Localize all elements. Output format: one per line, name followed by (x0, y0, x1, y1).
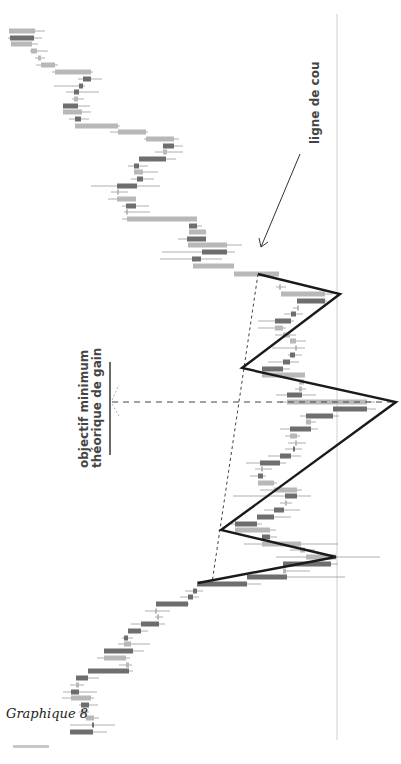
candle-body (71, 690, 79, 695)
candle-body (76, 683, 79, 688)
candle-body (117, 197, 136, 202)
candle-body (260, 461, 280, 466)
candle-body (290, 353, 295, 358)
candle-body (155, 609, 157, 614)
candle-body (117, 184, 137, 189)
candle-body (74, 90, 79, 95)
candle-body (306, 414, 333, 419)
candle-body (38, 56, 41, 61)
candle-body (283, 360, 290, 365)
candle-body (285, 494, 297, 499)
candle-body (104, 656, 126, 661)
candle-body (11, 42, 32, 47)
candle-body (234, 272, 279, 277)
candle-body (193, 264, 234, 269)
candle-body (295, 441, 297, 446)
candle-body (71, 696, 91, 701)
candle-body (188, 243, 227, 248)
candle-body (235, 522, 257, 527)
candle-body (75, 117, 81, 122)
candle-body (306, 420, 311, 425)
candle-body (9, 29, 35, 34)
candle-body (134, 170, 143, 175)
candle-body (137, 177, 143, 182)
candle-body (281, 292, 325, 297)
candle-body (258, 481, 274, 486)
neckline-arrow-head (259, 238, 268, 247)
candle-body (55, 70, 91, 75)
candle-body (187, 237, 206, 242)
candle-body (31, 49, 37, 54)
candle-body (297, 306, 299, 311)
candle-body (63, 110, 82, 115)
target-marker-ticks (112, 385, 119, 416)
candle-body (146, 137, 174, 142)
candle-body (41, 63, 55, 68)
candle-body (104, 649, 133, 654)
candle-body (156, 602, 188, 607)
candle-body (193, 589, 197, 594)
candle-body (275, 319, 291, 324)
candle-body (79, 84, 83, 89)
candle-body (283, 569, 286, 574)
candle-body (92, 723, 94, 728)
candle-body (88, 669, 129, 674)
candle-body (141, 622, 159, 627)
candle-body (275, 326, 283, 331)
candle-body (139, 157, 166, 162)
candle-body (279, 285, 281, 290)
candle-body (124, 642, 131, 647)
candle-body (235, 528, 270, 533)
candle-body (285, 501, 287, 506)
candle-body (126, 204, 136, 209)
figure-caption: Graphique 8 (6, 706, 88, 721)
candle-body (293, 447, 295, 452)
candle-body (127, 217, 197, 222)
candle-body (290, 339, 296, 344)
candle-body (333, 407, 367, 412)
candle-body (262, 367, 283, 372)
candle-body (291, 312, 296, 317)
candle-body (134, 164, 139, 169)
candle-body (261, 467, 263, 472)
candle-body (290, 434, 297, 439)
candle-body (188, 595, 193, 600)
candle-body (157, 615, 159, 620)
candle-body (202, 250, 227, 255)
target-label-line2: théorique de gain (91, 348, 104, 468)
candle-body (163, 150, 167, 155)
candle-body (274, 508, 284, 513)
candle-body (75, 124, 118, 129)
target-annotation: objectif minimum théorique de gain (78, 348, 104, 468)
candle-body (189, 224, 197, 229)
candle-body (192, 257, 201, 262)
candle-body (163, 144, 174, 149)
candle-body (287, 393, 302, 398)
candle-body (10, 36, 34, 41)
candlesticks (8, 29, 380, 735)
caption-decoration (13, 745, 49, 748)
candle-body (117, 190, 119, 195)
candle-body (247, 575, 287, 580)
candle-body (299, 387, 302, 392)
candle-body (70, 730, 93, 735)
candle-body (83, 77, 91, 82)
candle-body (258, 474, 263, 479)
candle-body (124, 636, 128, 641)
candle-body (118, 130, 146, 135)
neckline-arrow-shaft (261, 154, 300, 247)
candle-body (74, 97, 78, 102)
candle-body (126, 663, 129, 668)
candle-body (76, 676, 88, 681)
candle-body (295, 346, 297, 351)
candle-body (290, 427, 311, 432)
candle-body (189, 230, 206, 235)
head-and-shoulders-chart (0, 0, 401, 764)
candle-body (280, 454, 291, 459)
candle-body (297, 299, 325, 304)
candle-body (126, 210, 128, 215)
candle-body (63, 104, 78, 109)
candle-body (128, 629, 141, 634)
candle-body (257, 515, 274, 520)
